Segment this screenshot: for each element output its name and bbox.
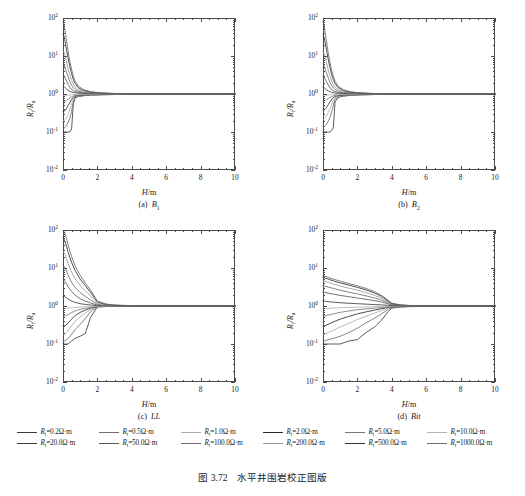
x-tick-minor (89, 230, 90, 232)
y-tick-minor (233, 24, 235, 25)
y-tick-label: 100 (308, 302, 318, 309)
y-tick-major (231, 94, 235, 95)
y-tick-minor (323, 274, 325, 275)
y-tick-major (323, 344, 327, 345)
x-tick-minor (140, 380, 141, 382)
y-tick-minor (493, 295, 495, 296)
curve-line (63, 94, 235, 128)
x-tick-major (235, 18, 236, 22)
y-tick-minor (493, 102, 495, 103)
y-tick-minor (233, 26, 235, 27)
x-tick-minor (123, 230, 124, 232)
x-tick-major (323, 18, 324, 22)
legend-item[interactable]: Rt=2.0Ω·m (263, 428, 345, 436)
x-tick-minor (478, 18, 479, 20)
y-tick-minor (323, 352, 325, 353)
y-tick-minor (233, 272, 235, 273)
y-tick-minor (63, 134, 65, 135)
x-tick-major (392, 166, 393, 170)
x-tick-major (426, 378, 427, 382)
y-tick-minor (63, 140, 65, 141)
y-tick-label: 100 (308, 90, 318, 97)
legend-item[interactable]: Rt=0.5Ω·m (99, 428, 181, 436)
y-tick-minor (233, 250, 235, 251)
x-tick-minor (72, 230, 73, 232)
legend-item[interactable]: Rt=1.0Ω·m (181, 428, 263, 436)
y-axis-label-b: Rt/Ra (286, 101, 295, 118)
legend-item[interactable]: Rt=200.0Ω·m (263, 439, 345, 447)
y-tick-minor (63, 138, 65, 139)
y-tick-minor (493, 279, 495, 280)
y-tick-minor (63, 312, 65, 313)
x-tick-minor (226, 230, 227, 232)
x-tick-minor (340, 168, 341, 170)
y-tick-minor (233, 140, 235, 141)
y-tick-minor (233, 350, 235, 351)
legend-item[interactable]: Rt=500.0Ω·m (345, 439, 427, 447)
y-tick-minor (233, 67, 235, 68)
y-tick-minor (493, 308, 495, 309)
caption-title: 水平井围岩校正图版 (237, 472, 327, 483)
y-tick-minor (63, 348, 65, 349)
legend-item[interactable]: Rt=100.0Ω·m (181, 439, 263, 447)
x-tick-label: 4 (390, 174, 394, 181)
y-tick-minor (493, 321, 495, 322)
y-tick-minor (493, 45, 495, 46)
legend-item[interactable]: Rt=10.0Ω·m (427, 428, 509, 436)
x-tick-major (166, 230, 167, 234)
y-tick-minor (63, 64, 65, 65)
y-tick-minor (493, 76, 495, 77)
y-tick-minor (233, 317, 235, 318)
y-tick-label: 102 (308, 14, 318, 21)
y-tick-minor (233, 62, 235, 63)
y-tick-minor (63, 321, 65, 322)
x-tick-label: 4 (390, 386, 394, 393)
legend-line-swatch (181, 432, 201, 433)
y-tick-minor (63, 276, 65, 277)
y-tick-major (231, 132, 235, 133)
x-tick-minor (400, 380, 401, 382)
y-tick-minor (323, 136, 325, 137)
y-tick-minor (63, 352, 65, 353)
y-tick-minor (493, 147, 495, 148)
y-tick-minor (493, 64, 495, 65)
legend-item[interactable]: Rt=0.2Ω·m (17, 428, 99, 436)
x-tick-major (495, 378, 496, 382)
y-tick-minor (493, 136, 495, 137)
y-tick-minor (233, 326, 235, 327)
curve-line (63, 306, 235, 344)
curve-line (323, 22, 495, 94)
legend-item[interactable]: Rt=5.0Ω·m (345, 428, 427, 436)
x-tick-label: 4 (130, 386, 134, 393)
y-tick-minor (493, 60, 495, 61)
x-tick-label: 8 (199, 386, 203, 393)
y-tick-minor (63, 333, 65, 334)
y-tick-minor (323, 96, 325, 97)
x-tick-major (461, 230, 462, 234)
x-tick-minor (123, 18, 124, 20)
x-tick-major (63, 230, 64, 234)
plot-area-a: 10-210-11001011020246810 (63, 18, 235, 170)
y-tick-major (63, 132, 67, 133)
y-tick-minor (493, 355, 495, 356)
y-tick-minor (323, 355, 325, 356)
x-tick-label: 6 (164, 174, 168, 181)
curve-line (323, 281, 495, 306)
y-tick-minor (493, 71, 495, 72)
x-tick-label: 8 (459, 174, 463, 181)
y-tick-minor (233, 121, 235, 122)
legend-item[interactable]: Rt=20.0Ω·m (17, 439, 99, 447)
y-tick-minor (323, 272, 325, 273)
x-tick-major (235, 230, 236, 234)
legend-item[interactable]: Rt=1000.0Ω·m (427, 439, 509, 447)
y-tick-minor (493, 114, 495, 115)
y-tick-minor (63, 295, 65, 296)
curve-line (323, 94, 495, 119)
y-tick-minor (323, 134, 325, 135)
legend-line-swatch (263, 443, 283, 444)
subplot-caption-a: (a) B1 (63, 200, 235, 209)
x-tick-minor (452, 18, 453, 20)
x-tick-minor (140, 168, 141, 170)
y-tick-minor (493, 58, 495, 59)
legend-item[interactable]: Rt=50.0Ω·m (99, 439, 181, 447)
